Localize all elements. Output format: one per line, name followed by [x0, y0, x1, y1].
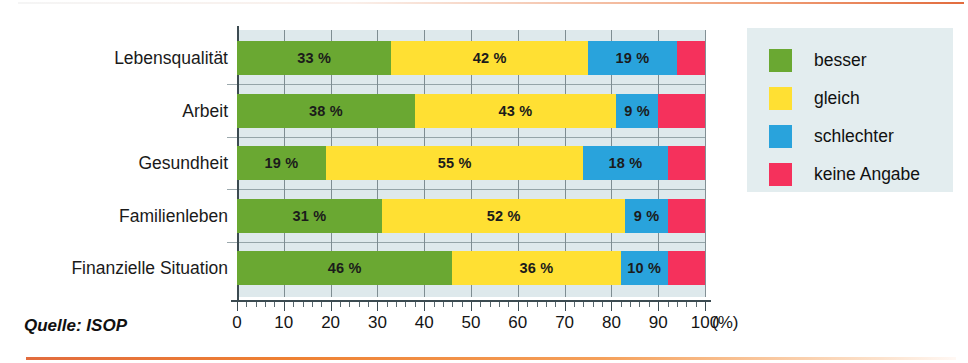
- x-tick-label: 80: [591, 313, 631, 333]
- bar-segment-schlechter[interactable]: 9 %: [625, 199, 667, 233]
- legend-label: gleich: [814, 88, 860, 109]
- bar-segment-keine-angabe[interactable]: [668, 199, 705, 233]
- x-tick-minor: [405, 302, 406, 307]
- legend-item[interactable]: gleich: [769, 80, 953, 116]
- x-tick-minor: [265, 302, 266, 307]
- category-label: Finanzielle Situation: [13, 258, 228, 279]
- x-tick-minor: [555, 302, 556, 307]
- x-tick-minor: [490, 302, 491, 307]
- legend-label: besser: [814, 50, 867, 71]
- x-tick-minor: [452, 302, 453, 307]
- x-tick-minor: [686, 302, 687, 307]
- bottom-decorative-rule: [26, 357, 956, 360]
- x-tick-minor: [527, 302, 528, 307]
- legend-item[interactable]: schlechter: [769, 118, 953, 154]
- x-tick-label: 30: [357, 313, 397, 333]
- bar-segment-schlechter[interactable]: 10 %: [621, 251, 668, 285]
- x-tick-minor: [630, 302, 631, 307]
- x-tick-label: 70: [545, 313, 585, 333]
- x-tick-minor: [387, 302, 388, 307]
- bar-segment-besser[interactable]: 33 %: [237, 41, 391, 75]
- legend-item[interactable]: besser: [769, 42, 953, 78]
- x-tick-minor: [340, 302, 341, 307]
- x-tick-minor: [677, 302, 678, 307]
- x-tick-minor: [696, 302, 697, 307]
- source-note: Quelle: ISOP: [24, 316, 127, 336]
- legend-swatch-icon: [769, 49, 792, 72]
- x-tick-minor: [621, 302, 622, 307]
- x-tick-minor: [368, 302, 369, 307]
- x-tick-label: 20: [311, 313, 351, 333]
- x-tick-minor: [359, 302, 360, 307]
- x-tick-minor: [256, 302, 257, 307]
- bar-row[interactable]: 38 %43 %9 %: [237, 94, 705, 128]
- category-separator: [227, 84, 705, 85]
- bar-segment-gleich[interactable]: 36 %: [452, 251, 620, 285]
- x-tick-label: 10: [264, 313, 304, 333]
- bar-segment-besser[interactable]: 31 %: [237, 199, 382, 233]
- bar-segment-keine-angabe[interactable]: [668, 251, 705, 285]
- x-tick-major: [658, 302, 659, 311]
- x-tick-label: 90: [638, 313, 678, 333]
- category-separator: [227, 189, 705, 190]
- gridline-100: [705, 30, 706, 297]
- x-tick-minor: [246, 302, 247, 307]
- x-tick-minor: [537, 302, 538, 307]
- x-tick-major: [424, 302, 425, 311]
- bar-segment-keine-angabe[interactable]: [658, 94, 705, 128]
- bar-segment-gleich[interactable]: 43 %: [415, 94, 616, 128]
- category-label: Familienleben: [13, 206, 228, 227]
- x-tick-minor: [593, 302, 594, 307]
- x-tick-minor: [574, 302, 575, 307]
- bar-segment-schlechter[interactable]: 19 %: [588, 41, 677, 75]
- bar-segment-gleich[interactable]: 42 %: [391, 41, 588, 75]
- x-tick-minor: [293, 302, 294, 307]
- legend-label: keine Angabe: [814, 164, 920, 185]
- bar-row[interactable]: 19 %55 %18 %: [237, 146, 705, 180]
- bar-segment-keine-angabe[interactable]: [668, 146, 705, 180]
- x-tick-minor: [668, 302, 669, 307]
- bar-row[interactable]: 46 %36 %10 %: [237, 251, 705, 285]
- bar-segment-keine-angabe[interactable]: [677, 41, 705, 75]
- x-tick-label: 0: [217, 313, 257, 333]
- x-tick-major: [331, 302, 332, 311]
- x-tick-label: 50: [451, 313, 491, 333]
- x-tick-minor: [602, 302, 603, 307]
- x-tick-minor: [396, 302, 397, 307]
- bar-segment-besser[interactable]: 46 %: [237, 251, 452, 285]
- x-tick-major: [705, 302, 706, 311]
- bar-row[interactable]: 33 %42 %19 %: [237, 41, 705, 75]
- bar-segment-schlechter[interactable]: 18 %: [583, 146, 667, 180]
- legend-item[interactable]: keine Angabe: [769, 156, 953, 192]
- x-tick-major: [237, 302, 238, 311]
- x-tick-minor: [321, 302, 322, 307]
- legend-swatch-icon: [769, 163, 792, 186]
- x-tick-major: [377, 302, 378, 311]
- legend-swatch-icon: [769, 125, 792, 148]
- category-separator: [227, 242, 705, 243]
- x-tick-minor: [583, 302, 584, 307]
- x-tick-label: 60: [498, 313, 538, 333]
- category-label: Lebensqualität: [13, 48, 228, 69]
- bar-segment-besser[interactable]: 38 %: [237, 94, 415, 128]
- bar-segment-gleich[interactable]: 52 %: [382, 199, 625, 233]
- x-tick-label: 100: [685, 313, 725, 333]
- bar-segment-schlechter[interactable]: 9 %: [616, 94, 658, 128]
- bar-row[interactable]: 31 %52 %9 %: [237, 199, 705, 233]
- bar-segment-besser[interactable]: 19 %: [237, 146, 326, 180]
- x-tick-minor: [639, 302, 640, 307]
- category-label: Gesundheit: [13, 153, 228, 174]
- x-tick-minor: [415, 302, 416, 307]
- category-label: Arbeit: [13, 101, 228, 122]
- x-tick-minor: [434, 302, 435, 307]
- x-tick-major: [471, 302, 472, 311]
- x-tick-major: [284, 302, 285, 311]
- x-tick-minor: [443, 302, 444, 307]
- x-tick-minor: [462, 302, 463, 307]
- x-tick-major: [518, 302, 519, 311]
- bar-segment-gleich[interactable]: 55 %: [326, 146, 583, 180]
- stacked-bar-chart: LebensqualitätArbeitGesundheitFamilienle…: [0, 0, 968, 363]
- x-tick-major: [611, 302, 612, 311]
- legend-swatch-icon: [769, 87, 792, 110]
- x-tick-minor: [499, 302, 500, 307]
